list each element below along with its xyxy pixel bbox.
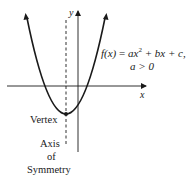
formula-rest: + bx + c, xyxy=(142,47,186,59)
formula-a-term: ax xyxy=(128,47,138,59)
axis-of-symmetry-label-line1: Axis xyxy=(40,139,60,150)
formula-lhs: f(x) xyxy=(101,47,116,59)
function-formula: f(x) = ax2 + bx + c, xyxy=(101,47,186,59)
axis-of-symmetry-label-line2: of xyxy=(47,152,56,163)
y-axis-label: y xyxy=(69,8,73,18)
x-axis-label: x xyxy=(140,90,144,100)
parabola-left-arrow-icon xyxy=(24,13,30,20)
vertex-label: Vertex xyxy=(30,115,57,126)
parabola-diagram xyxy=(0,0,191,185)
formula-condition: a > 0 xyxy=(130,61,154,72)
formula-equals: = xyxy=(116,47,128,59)
vertex-point xyxy=(64,112,68,116)
parabola-right-arrow-icon xyxy=(103,13,109,20)
axis-of-symmetry-label-line3: Symmetry xyxy=(27,165,71,176)
